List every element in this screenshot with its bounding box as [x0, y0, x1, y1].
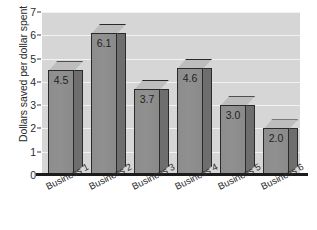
y-tick-mark — [37, 12, 41, 13]
x-axis-tick-labels: Business 1Business 2Business 3Business 4… — [42, 176, 300, 230]
bar-side-face — [117, 33, 126, 175]
y-tick-mark — [37, 128, 41, 129]
y-tick-mark — [37, 81, 41, 82]
y-axis-tick-labels: 01234567 — [18, 12, 36, 175]
gridline — [42, 35, 300, 36]
y-tick-label: 6 — [18, 29, 36, 41]
gridline — [42, 59, 300, 60]
plot-area: 4.56.13.74.63.02.0 — [42, 12, 300, 175]
bar-side-face — [203, 68, 212, 175]
bar[interactable]: 3.7 — [134, 89, 160, 175]
bar-value-label: 4.5 — [48, 74, 74, 86]
bar-side-face — [74, 70, 83, 175]
bar-front-face — [91, 33, 117, 175]
y-tick-label: 5 — [18, 53, 36, 65]
gridline — [42, 12, 300, 13]
y-tick-label: 1 — [18, 146, 36, 158]
y-tick-label: 3 — [18, 99, 36, 111]
y-tick-label: 7 — [18, 6, 36, 18]
y-tick-mark — [37, 105, 41, 106]
bar-value-label: 4.6 — [177, 72, 203, 84]
bar-value-label: 3.7 — [134, 93, 160, 105]
bar-chart-figure: Dollars saved per dollar spent 01234567 … — [0, 0, 317, 230]
bar-value-label: 6.1 — [91, 37, 117, 49]
bar[interactable]: 4.6 — [177, 68, 203, 175]
bar[interactable]: 3.0 — [220, 105, 246, 175]
y-tick-mark — [37, 35, 41, 36]
bar[interactable]: 4.5 — [48, 70, 74, 175]
y-tick-mark — [37, 151, 41, 152]
y-tick-label: 0 — [18, 169, 36, 181]
y-tick-mark — [37, 58, 41, 59]
bar-value-label: 2.0 — [263, 132, 289, 144]
y-tick-label: 2 — [18, 122, 36, 134]
bar-value-label: 3.0 — [220, 109, 246, 121]
bar[interactable]: 6.1 — [91, 33, 117, 175]
bar-front-face — [177, 68, 203, 175]
y-tick-label: 4 — [18, 76, 36, 88]
